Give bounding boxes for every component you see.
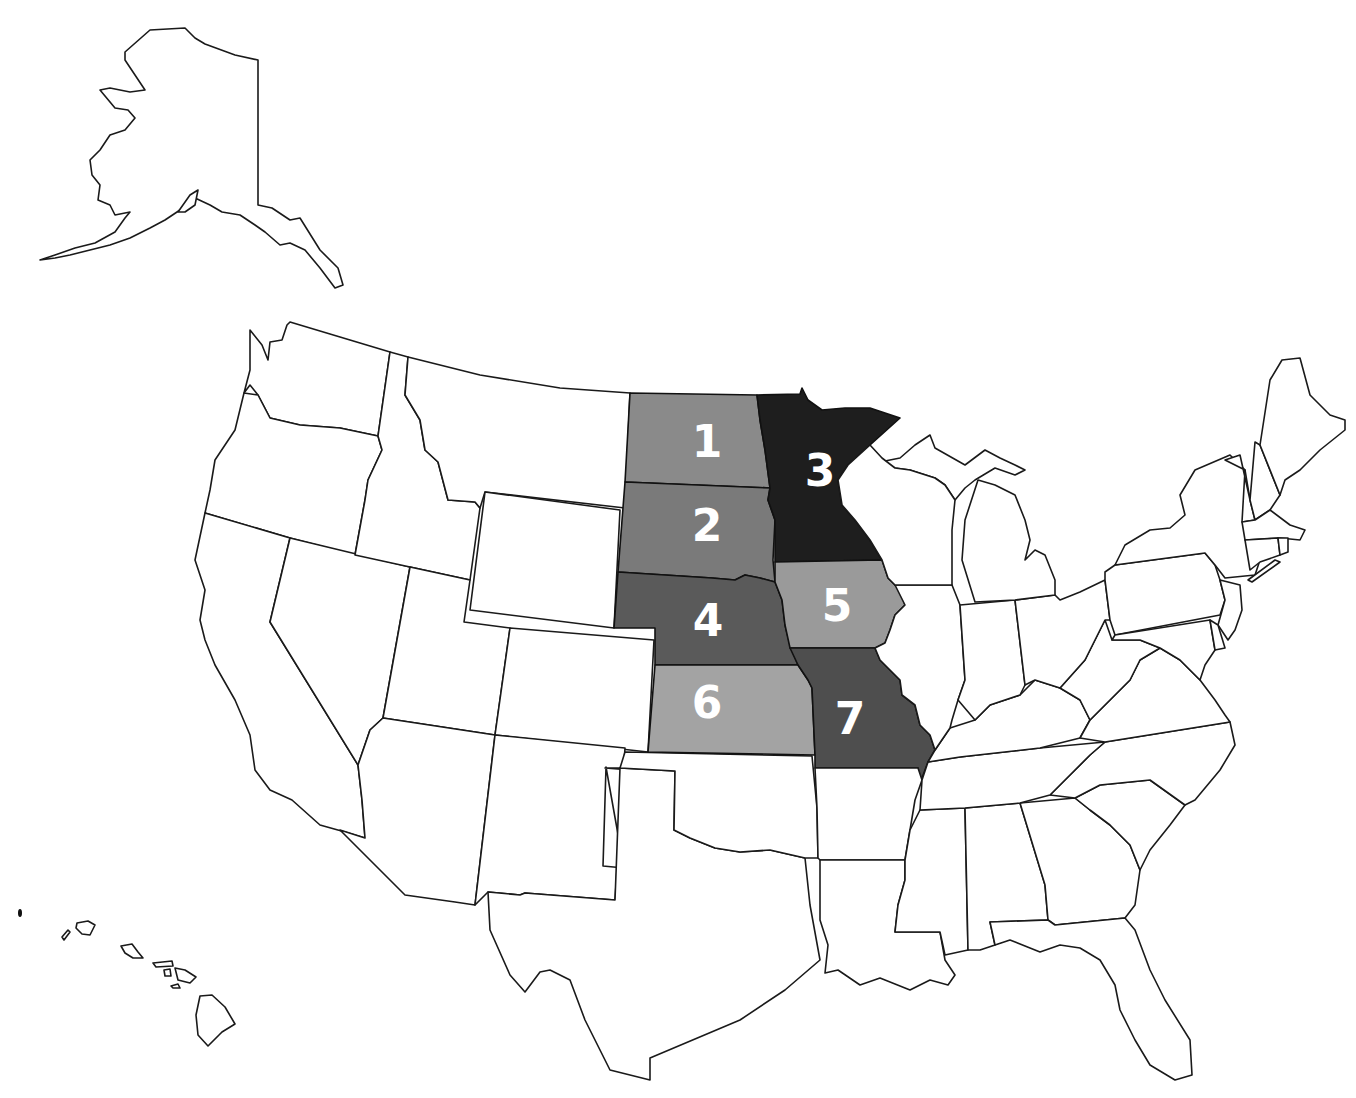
state-kansas (648, 665, 815, 755)
hawaii-niihau-dot (18, 909, 22, 917)
label-number-1: 1 (692, 416, 723, 467)
state-wyoming (470, 492, 620, 628)
label-number-2: 2 (692, 500, 723, 551)
label-number-5: 5 (822, 580, 853, 631)
state-hawaii-kauai (62, 930, 70, 940)
state-new-jersey (1218, 580, 1242, 640)
label-number-3: 3 (805, 445, 836, 496)
state-new-mexico (475, 735, 625, 905)
label-number-6: 6 (692, 677, 723, 728)
state-michigan-lower (962, 480, 1055, 602)
state-hawaii-oahu (76, 921, 95, 935)
us-map: 1 2 3 4 5 6 7 (0, 0, 1356, 1098)
label-number-7: 7 (835, 693, 866, 744)
state-hawaii-big-island (196, 995, 235, 1046)
state-florida (990, 918, 1192, 1080)
state-alaska (40, 28, 343, 288)
state-hawaii-molokai (121, 944, 143, 958)
state-rhode-island (1278, 538, 1288, 555)
state-maine (1260, 358, 1345, 495)
state-arkansas (815, 768, 922, 860)
label-number-4: 4 (693, 595, 724, 646)
state-hawaii-maui-group (153, 961, 196, 988)
state-colorado (495, 628, 654, 752)
